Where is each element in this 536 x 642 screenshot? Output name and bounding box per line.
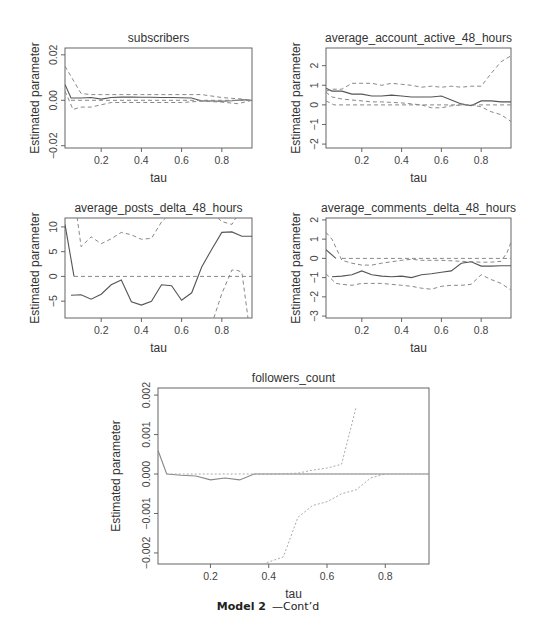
y-tick-label: −1 <box>308 271 320 283</box>
plot-frame <box>158 388 429 564</box>
caption-model-label: Model 2 <box>217 600 266 613</box>
chart-panel-average-posts-delta-48-hours: average_posts_delta_48_hours0.20.40.60.8… <box>28 201 252 355</box>
x-tick-label: 0.6 <box>320 570 335 582</box>
x-tick-label: 0.2 <box>355 324 370 336</box>
x-tick-label: 0.8 <box>215 154 230 166</box>
x-tick-label: 0.6 <box>434 324 449 336</box>
x-tick-label: 0.2 <box>355 154 370 166</box>
chart-panel-followers-count: followers_count0.20.40.60.8−0.002−0.0010… <box>109 371 429 601</box>
y-axis-label: Estimated parameter <box>289 42 303 153</box>
x-tick-label: 0.2 <box>94 154 109 166</box>
y-tick-label: 0.02 <box>47 44 59 65</box>
caption-continued: —Cont’d <box>272 600 319 613</box>
y-tick-label: −0.02 <box>47 132 59 159</box>
y-tick-label: 0.000 <box>140 461 152 487</box>
x-tick-label: 0.4 <box>134 154 149 166</box>
series-lower-ci-right <box>214 270 248 318</box>
y-tick-label: 0.002 <box>140 382 152 408</box>
chart-panel-average-account-active-48-hours: average_account_active_48_hours0.20.40.6… <box>289 31 512 185</box>
series-upper-ci <box>77 217 165 247</box>
x-axis-label: tau <box>410 171 427 185</box>
chart-figure: subscribers0.20.40.60.8−0.020.000.02tauE… <box>0 0 536 642</box>
x-tick-label: 0.6 <box>174 324 189 336</box>
x-tick-label: 0.8 <box>215 324 230 336</box>
series-upper-ci <box>65 66 252 100</box>
x-tick-label: 0.2 <box>94 324 109 336</box>
chart-title: average_account_active_48_hours <box>325 31 512 45</box>
y-tick-label: 0.001 <box>140 421 152 447</box>
y-tick-label: −0.001 <box>140 497 152 530</box>
x-tick-label: 0.8 <box>474 154 489 166</box>
y-tick-label: 1 <box>308 82 320 88</box>
y-axis-label: Estimated parameter <box>109 420 123 531</box>
chart-panel-average-comments-delta-48-hours: average_comments_delta_48_hours0.20.40.6… <box>289 201 516 355</box>
y-tick-label: −5 <box>47 295 59 307</box>
y-tick-label: −1 <box>308 118 320 130</box>
x-axis-label: tau <box>150 341 167 355</box>
y-tick-label: 5 <box>47 249 59 255</box>
x-tick-label: 0.8 <box>474 324 489 336</box>
y-axis-label: Estimated parameter <box>28 212 42 323</box>
x-tick-label: 0.4 <box>394 324 409 336</box>
x-tick-label: 0.4 <box>261 570 276 582</box>
series-estimate-start <box>326 250 336 259</box>
series-upper-ci-right <box>218 218 236 224</box>
y-tick-label: 0.00 <box>47 90 59 111</box>
plot-frame <box>65 218 252 318</box>
y-axis-label: Estimated parameter <box>289 212 303 323</box>
chart-title: subscribers <box>128 31 189 45</box>
chart-title: followers_count <box>252 371 336 385</box>
x-axis-label: tau <box>410 341 427 355</box>
y-tick-label: −2 <box>308 138 320 150</box>
series-upper-ci <box>326 56 511 91</box>
y-tick-label: −2 <box>308 291 320 303</box>
y-tick-label: 10 <box>47 221 59 233</box>
plot-frame <box>326 218 511 318</box>
y-tick-label: 0 <box>308 102 320 108</box>
x-tick-label: 0.6 <box>434 154 449 166</box>
x-tick-label: 0.8 <box>378 570 393 582</box>
x-axis-label: tau <box>150 171 167 185</box>
series-estimate-start <box>65 224 74 276</box>
y-tick-label: −0.002 <box>140 537 152 570</box>
y-axis-label: Estimated parameter <box>28 42 42 153</box>
figure-caption: Model 2—Cont’d <box>0 600 536 613</box>
series-estimate <box>326 88 511 106</box>
series-estimate <box>71 232 252 305</box>
x-tick-label: 0.4 <box>394 154 409 166</box>
series-estimate <box>65 84 252 101</box>
chart-title: average_posts_delta_48_hours <box>74 201 242 215</box>
y-tick-label: 0 <box>308 255 320 261</box>
series-upper-ci <box>254 407 356 474</box>
series-lower-ci <box>263 474 385 564</box>
chart-title: average_comments_delta_48_hours <box>321 201 516 215</box>
y-tick-label: 0 <box>47 273 59 279</box>
x-tick-label: 0.4 <box>134 324 149 336</box>
y-tick-label: 2 <box>308 63 320 69</box>
series-lower-ci <box>326 274 511 290</box>
y-tick-label: −3 <box>308 310 320 322</box>
y-tick-label: 2 <box>308 217 320 223</box>
series-estimate <box>158 450 429 480</box>
x-axis-label: tau <box>285 587 302 601</box>
series-upper-ci <box>326 232 511 265</box>
y-tick-label: 1 <box>308 236 320 242</box>
x-tick-label: 0.6 <box>174 154 189 166</box>
plot-frame <box>326 48 511 148</box>
chart-panel-subscribers: subscribers0.20.40.60.8−0.020.000.02tauE… <box>28 31 252 185</box>
x-tick-label: 0.2 <box>203 570 218 582</box>
